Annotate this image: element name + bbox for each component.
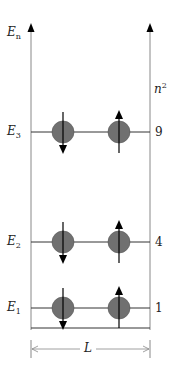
particle-spin-down: [52, 288, 74, 330]
level-subscript: 3: [16, 131, 21, 140]
n-symbol: n: [154, 82, 162, 96]
spin-up-arrow-icon: [115, 286, 123, 295]
energy-symbol: E: [7, 25, 16, 39]
spin-down-arrow-icon: [59, 255, 67, 264]
left-axis: [28, 23, 35, 330]
well-width-label: L: [84, 342, 92, 354]
spin-down-arrow-icon: [59, 145, 67, 154]
axis-arrow-icon: [147, 23, 154, 32]
spin-up-arrow-icon: [115, 110, 123, 119]
energy-axis-label: En: [7, 26, 21, 41]
n-squared-value-e2: 4: [155, 236, 163, 248]
level-subscript: 2: [16, 241, 21, 250]
n-squared-value-e1: 1: [155, 302, 163, 314]
axis-arrow-icon: [28, 23, 35, 32]
level-label-e3: E3: [7, 125, 21, 140]
level-subscript: 1: [16, 307, 21, 316]
spin-up-arrow-icon: [115, 220, 123, 229]
particle-spin-up: [108, 286, 130, 328]
n-superscript: 2: [162, 81, 167, 90]
level-label-e1: E1: [7, 301, 21, 316]
right-axis: [147, 23, 154, 330]
particle-spin-up: [108, 110, 130, 153]
n-squared-value-e3: 9: [155, 126, 163, 138]
particle-spin-up: [108, 220, 130, 263]
level-label-e2: E2: [7, 235, 21, 250]
energy-subscript: n: [16, 32, 21, 41]
level-symbol: E: [7, 234, 16, 248]
n-squared-axis-label: n2: [154, 82, 167, 95]
particle-spin-down: [52, 222, 74, 264]
spin-down-arrow-icon: [59, 321, 67, 330]
energy-level-diagram: [0, 0, 174, 373]
particle-spin-down: [52, 112, 74, 154]
level-symbol: E: [7, 124, 16, 138]
level-symbol: E: [7, 300, 16, 314]
